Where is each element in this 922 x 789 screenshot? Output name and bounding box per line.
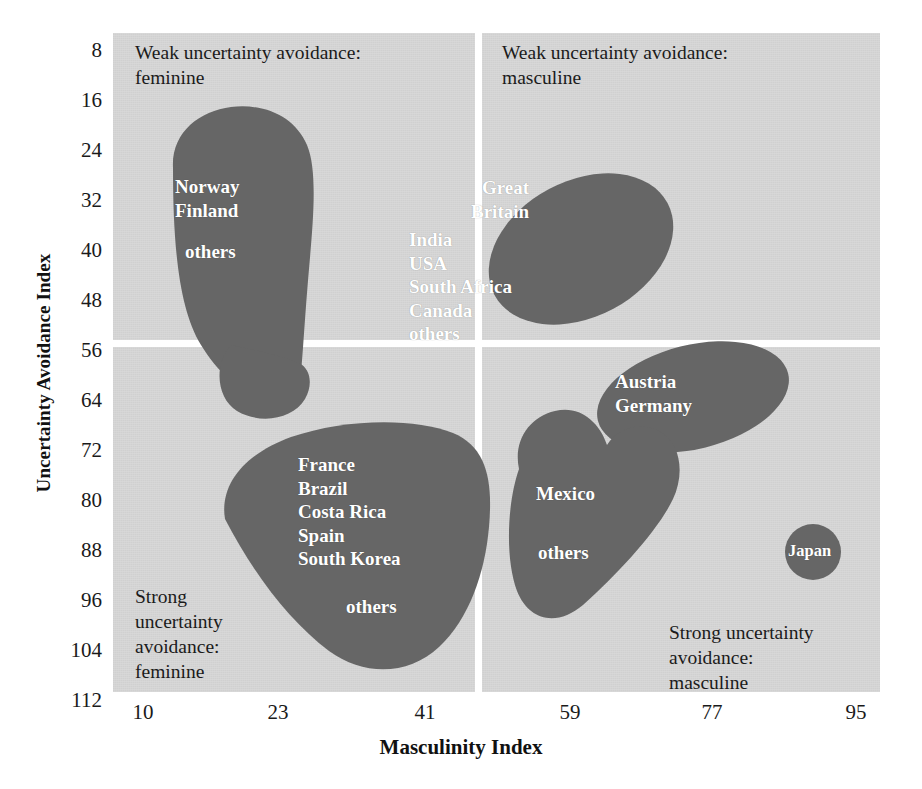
x-axis-title: Masculinity Index [0,735,922,760]
quadrant-caption-top-right: Weak uncertainty avoidance: masculine [502,41,728,91]
chart-figure: 8 16 24 32 40 48 56 64 72 80 88 96 104 1… [0,0,922,789]
y-tick-88: 88 [46,538,102,563]
blob-label-nordic-others: others [185,240,236,264]
plot-area: Weak uncertainty avoidance: feminine Wea… [113,33,880,692]
quadrant-caption-bottom-left: Strong uncertainty avoidance: feminine [135,585,223,685]
x-tick-41: 41 [415,700,436,725]
blob-mexico[interactable] [509,410,680,618]
x-tick-77: 77 [702,700,723,725]
y-tick-8: 8 [46,38,102,63]
blob-label-latin-feminine: France Brazil Costa Rica Spain South Kor… [298,453,401,571]
blob-label-latin-others: others [346,595,397,619]
blob-label-anglo: India USA South Africa Canada others [409,228,512,346]
blob-label-germanic: Austria Germany [615,370,692,417]
cluster-blobs [113,33,880,692]
x-tick-10: 10 [133,700,154,725]
quadrant-caption-bottom-right: Strong uncertainty avoidance: masculine [669,621,814,692]
y-tick-16: 16 [46,88,102,113]
y-tick-24: 24 [46,138,102,163]
y-tick-96: 96 [46,588,102,613]
blob-label-japan: Japan [788,541,831,561]
y-axis-title: Uncertainty Avoidance Index [33,243,55,503]
blob-label-mexico: Mexico [536,482,595,506]
quadrant-caption-top-left: Weak uncertainty avoidance: feminine [135,41,361,91]
blob-label-mexico-others: others [538,541,589,565]
x-tick-23: 23 [268,700,289,725]
x-axis-tick-labels: 10 23 41 59 77 95 [0,700,922,734]
x-tick-59: 59 [560,700,581,725]
blob-label-nordic: Norway Finland [175,175,239,222]
blob-label-great-britain: Great Britain [471,176,529,223]
y-tick-32: 32 [46,188,102,213]
y-tick-104: 104 [46,638,102,663]
x-tick-95: 95 [846,700,867,725]
